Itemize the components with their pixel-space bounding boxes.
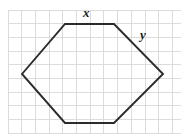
grid-vertical-lines — [8, 10, 172, 133]
hexagon-figure: x y — [0, 0, 185, 135]
side-label-y: y — [140, 28, 146, 41]
side-label-x: x — [83, 6, 90, 19]
figure-canvas — [0, 0, 185, 135]
grid-horizontal-lines — [8, 10, 181, 133]
